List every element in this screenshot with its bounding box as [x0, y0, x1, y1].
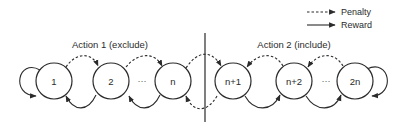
edge-n-2-reward	[129, 95, 160, 108]
node-2: 2	[93, 63, 129, 99]
svg-text:2n: 2n	[350, 76, 361, 87]
edges	[20, 54, 388, 109]
ellipsis-left: ···	[138, 76, 147, 86]
svg-text:n+1: n+1	[225, 76, 241, 87]
edge-n-n1-penalty	[186, 54, 221, 68]
edge-n2-2n-reward	[306, 95, 341, 108]
node-1: 1	[36, 63, 72, 99]
node-2n: 2n	[337, 63, 373, 99]
edge-n1-n-penalty	[186, 96, 217, 109]
edge-2-1-reward	[66, 95, 96, 108]
reward-legend-label: Reward	[341, 20, 372, 30]
legend: Penalty Reward	[307, 7, 372, 30]
edge-1-2-penalty	[66, 56, 98, 67]
action-1-title: Action 1 (exclude)	[72, 39, 148, 50]
node-n-plus-2: n+2	[276, 63, 312, 99]
edge-n1-n2-reward	[245, 95, 280, 108]
edge-2-n-penalty	[126, 56, 162, 67]
svg-text:n+2: n+2	[286, 76, 302, 87]
action-2-title: Action 2 (include)	[257, 39, 330, 50]
ellipsis-right: ···	[322, 76, 331, 86]
mdp-state-diagram: Penalty Reward Action 1 (exclude) Action…	[0, 0, 408, 131]
svg-text:1: 1	[51, 76, 56, 87]
node-n: n	[155, 63, 191, 99]
edge-2n-n2-penalty	[308, 56, 343, 67]
svg-text:n: n	[170, 76, 175, 87]
edge-n2-n1-penalty	[247, 56, 283, 67]
svg-text:2: 2	[108, 76, 113, 87]
penalty-legend-label: Penalty	[341, 7, 372, 17]
node-n-plus-1: n+1	[215, 63, 251, 99]
